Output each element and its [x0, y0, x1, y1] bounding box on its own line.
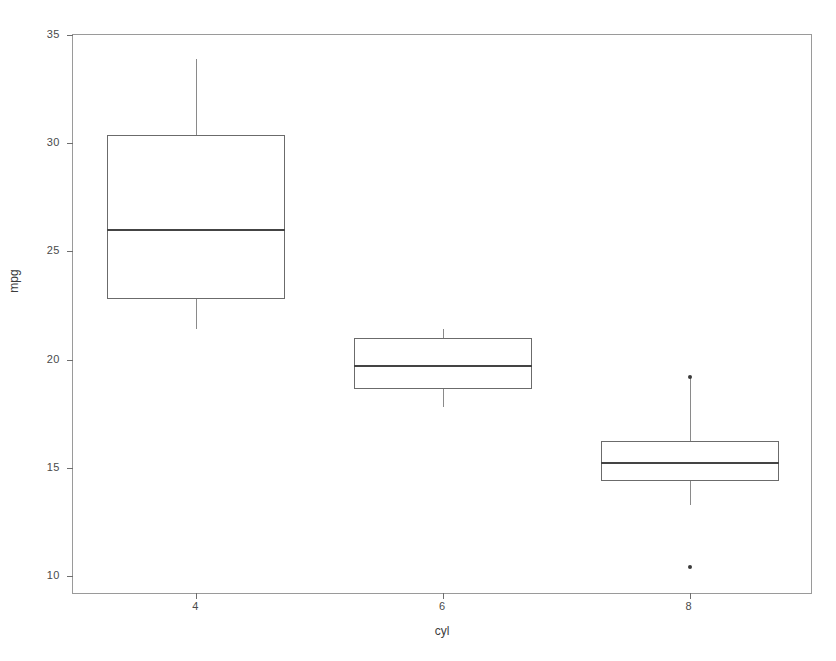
median-line	[601, 462, 779, 464]
x-axis-tick-labels: 468	[72, 600, 812, 620]
x-tick-label-8: 8	[686, 600, 692, 612]
whisker-lower	[690, 481, 691, 505]
y-axis-tick-labels: 101520253035	[30, 34, 60, 594]
x-tick-mark	[443, 593, 444, 599]
x-tick-label-6: 6	[439, 600, 445, 612]
y-tick-label-10: 10	[47, 569, 60, 581]
box-rect	[601, 441, 779, 481]
y-axis-title: mpg	[7, 269, 21, 292]
box-group-cyl-8	[73, 35, 811, 593]
outlier-point	[688, 375, 692, 379]
boxplot-figure: mpg 101520253035 468 cyl	[0, 0, 836, 661]
y-tick-label-20: 20	[47, 353, 60, 365]
y-tick-label-35: 35	[47, 28, 60, 40]
outlier-point	[688, 565, 692, 569]
x-tick-label-4: 4	[192, 600, 198, 612]
y-tick-label-15: 15	[47, 461, 60, 473]
y-tick-label-30: 30	[47, 136, 60, 148]
x-tick-mark	[690, 593, 691, 599]
whisker-upper	[690, 377, 691, 441]
y-tick-label-25: 25	[47, 244, 60, 256]
plot-panel	[72, 34, 812, 594]
x-axis-title: cyl	[435, 624, 450, 638]
x-tick-mark	[196, 593, 197, 599]
